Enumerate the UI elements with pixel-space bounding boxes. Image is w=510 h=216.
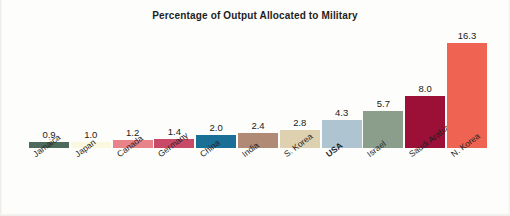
- bar-group: 2.4India: [238, 133, 278, 148]
- bar-group: 2.8S. Korea: [280, 130, 320, 148]
- bar-group: 1.0Japan: [71, 142, 111, 148]
- bar-group: 16.3N. Korea: [447, 43, 487, 148]
- bar-group: 8.0Saudi Arabia: [405, 96, 445, 148]
- bar-value-label: 16.3: [437, 30, 497, 41]
- bar-group: 4.3USA: [322, 120, 362, 148]
- chart-page: Percentage of Output Allocated to Milita…: [0, 0, 510, 216]
- bar-group: 5.7Israel: [363, 111, 403, 148]
- bar-group: 2.0China: [196, 135, 236, 148]
- bar-category-label: Japan: [73, 137, 98, 159]
- bar-group: 0.9Jamaica: [29, 142, 69, 148]
- bar-group: 1.4Germany: [154, 139, 194, 148]
- bar-group: 1.2Canada: [113, 140, 153, 148]
- bar-chart-plot-area: 0.9Jamaica1.0Japan1.2Canada1.4Germany2.0…: [0, 0, 510, 216]
- bar: [447, 43, 487, 148]
